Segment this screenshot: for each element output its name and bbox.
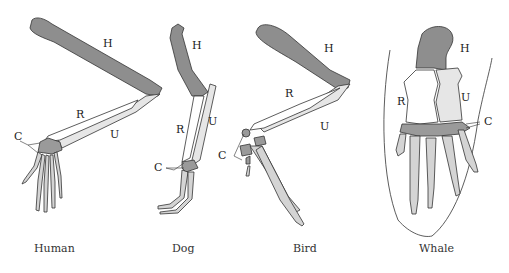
human-ulna (58, 94, 160, 148)
dog-label-ulna: U (208, 116, 217, 127)
bird-label-ulna: U (320, 121, 329, 132)
bird-phalanges (246, 146, 304, 226)
dog-phalanges (158, 170, 194, 214)
human-humerus (30, 18, 162, 96)
human-label-carpals: C (14, 131, 22, 142)
whale-label-radius: R (397, 96, 405, 107)
human-label-radius: R (76, 109, 84, 120)
bird-label-radius: R (285, 88, 293, 99)
dog-humerus (170, 24, 208, 96)
dog-label-humerus: H (192, 40, 202, 51)
bird-label-carpals: C (218, 150, 226, 161)
dog-caption: Dog (172, 243, 194, 254)
human-label-ulna: U (110, 129, 119, 140)
whale-caption: Whale (419, 243, 454, 254)
whale-label-carpals: C (484, 116, 492, 127)
bird-humerus (256, 25, 350, 88)
bird-caption: Bird (293, 243, 317, 254)
whale-radius (404, 70, 438, 124)
whale-humerus (416, 27, 453, 71)
human-phalanges (22, 152, 62, 212)
whale-ulna (436, 68, 462, 122)
whale-label-humerus: H (460, 43, 470, 54)
human-limb (20, 18, 162, 212)
dog-label-carpals: C (154, 162, 162, 173)
whale-label-ulna: U (461, 92, 470, 103)
human-label-humerus: H (103, 38, 113, 49)
whale-phalanges (396, 130, 478, 214)
dog-label-radius: R (176, 124, 184, 135)
human-radius (44, 100, 138, 142)
bird-label-humerus: H (324, 43, 334, 54)
human-caption: Human (34, 243, 75, 254)
whale-limb (384, 27, 492, 237)
forelimb-diagram (0, 0, 509, 273)
